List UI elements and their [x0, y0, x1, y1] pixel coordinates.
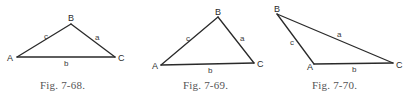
vertex-a-label: A	[7, 53, 13, 63]
vertex-c-label: C	[396, 60, 403, 70]
side-a-line	[218, 17, 254, 63]
figure-7-69: A B C a b c	[152, 7, 264, 75]
figure-caption-7-70: Fig. 7-70.	[312, 79, 357, 91]
side-b-label: b	[64, 59, 69, 68]
vertex-c-label: C	[257, 59, 264, 69]
figure-caption-7-68: Fig. 7-68.	[40, 79, 85, 91]
side-c-label: c	[186, 34, 190, 43]
vertex-b-label: B	[274, 4, 280, 14]
vertex-b-label: B	[215, 7, 221, 17]
side-b-label: b	[352, 65, 357, 74]
vertex-c-label: C	[118, 53, 125, 63]
vertex-b-label: B	[68, 13, 74, 23]
figure-7-70: A B C a b c	[274, 4, 403, 74]
side-c-label: c	[44, 32, 48, 41]
vertex-a-label: A	[307, 62, 313, 72]
triangle-figures-panel: A B C a b c A B C a b c A B C a	[0, 0, 407, 99]
side-b-line	[161, 63, 254, 65]
side-a-label: a	[337, 30, 342, 39]
figure-caption-7-69: Fig. 7-69.	[183, 79, 228, 91]
side-b-label: b	[208, 66, 213, 75]
figure-7-68: A B C a b c	[7, 13, 125, 68]
vertex-a-label: A	[152, 61, 158, 71]
side-a-line	[71, 24, 115, 57]
side-b-line	[314, 63, 393, 64]
side-a-label: a	[95, 33, 100, 42]
side-a-label: a	[240, 34, 245, 43]
side-c-label: c	[290, 38, 294, 47]
